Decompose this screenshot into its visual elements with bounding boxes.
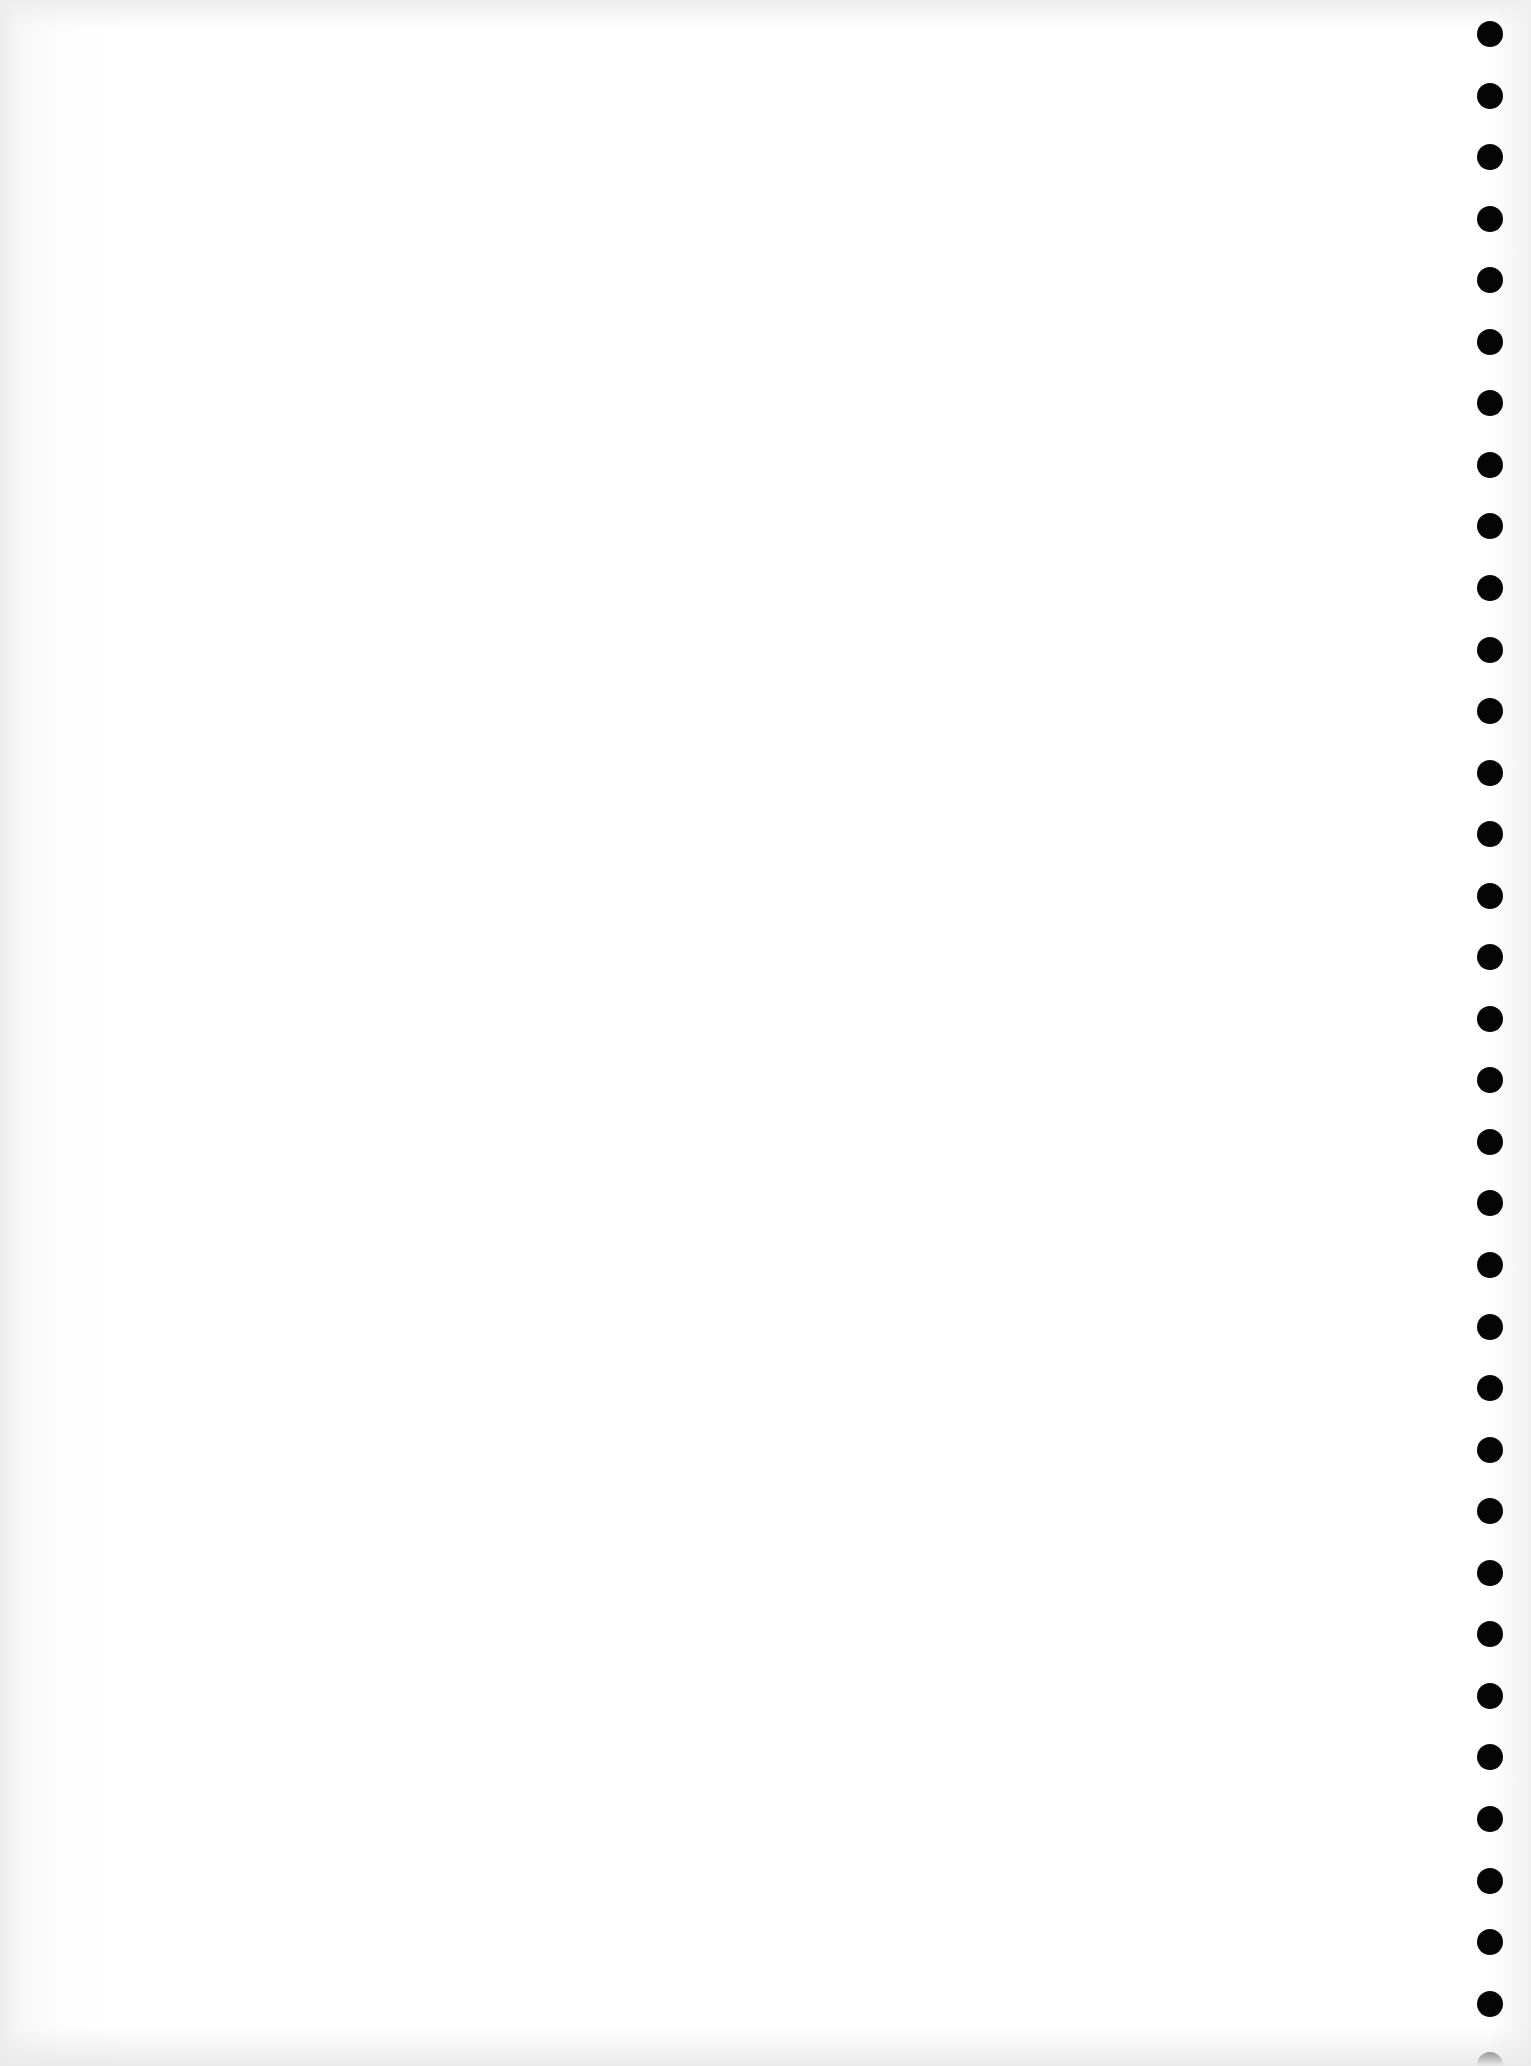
punch-hole — [1477, 390, 1503, 416]
punch-hole — [1477, 1375, 1503, 1401]
punch-hole — [1477, 1190, 1503, 1216]
punch-hole — [1477, 698, 1503, 724]
punch-hole — [1477, 1929, 1503, 1955]
punch-hole — [1477, 1806, 1503, 1832]
punch-hole — [1477, 1314, 1503, 1340]
punch-hole — [1477, 760, 1503, 786]
punch-hole — [1477, 21, 1503, 47]
punch-hole — [1477, 821, 1503, 847]
punch-hole — [1477, 2052, 1503, 2066]
punch-hole — [1477, 267, 1503, 293]
punch-hole — [1477, 1744, 1503, 1770]
punch-hole — [1477, 1683, 1503, 1709]
punch-hole — [1477, 83, 1503, 109]
punch-hole — [1477, 329, 1503, 355]
punch-hole — [1477, 1991, 1503, 2017]
punch-hole — [1477, 144, 1503, 170]
punch-hole — [1477, 513, 1503, 539]
punch-hole — [1477, 206, 1503, 232]
punch-hole — [1477, 883, 1503, 909]
punch-hole — [1477, 575, 1503, 601]
punch-hole — [1477, 1437, 1503, 1463]
punch-hole-column — [0, 0, 1531, 2066]
punch-hole — [1477, 1498, 1503, 1524]
notebook-page — [0, 0, 1531, 2066]
punch-hole — [1477, 1006, 1503, 1032]
punch-hole — [1477, 1252, 1503, 1278]
punch-hole — [1477, 637, 1503, 663]
punch-hole — [1477, 1129, 1503, 1155]
punch-hole — [1477, 1868, 1503, 1894]
punch-hole — [1477, 944, 1503, 970]
punch-hole — [1477, 1560, 1503, 1586]
punch-hole — [1477, 1621, 1503, 1647]
punch-hole — [1477, 1067, 1503, 1093]
punch-hole — [1477, 452, 1503, 478]
